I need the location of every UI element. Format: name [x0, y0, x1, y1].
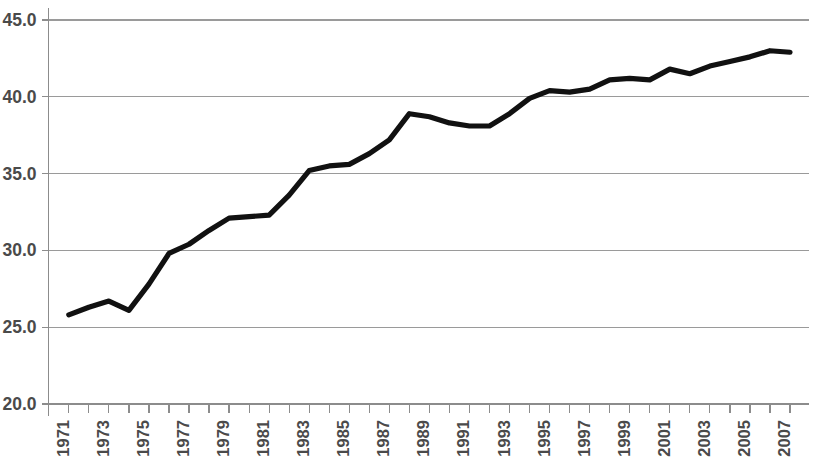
- x-tick-label-1983: 1983: [294, 420, 312, 457]
- line-chart: 20.025.030.035.040.045.0 197119731975197…: [0, 0, 819, 463]
- y-tick-label-35: 35.0: [2, 164, 36, 184]
- x-tick-label-2007: 2007: [775, 420, 793, 457]
- x-tick-label-1997: 1997: [575, 420, 593, 457]
- x-tick-label-1975: 1975: [134, 420, 152, 457]
- x-tick-label-1981: 1981: [254, 420, 272, 457]
- x-tick-label-1971: 1971: [54, 420, 72, 457]
- x-tick-label-1987: 1987: [374, 420, 392, 457]
- x-tick-label-1999: 1999: [615, 420, 633, 457]
- x-tick-label-2005: 2005: [735, 420, 753, 457]
- y-tick-label-40: 40.0: [2, 87, 36, 107]
- y-tick-label-30: 30.0: [2, 240, 36, 260]
- y-tick-label-45: 45.0: [2, 10, 36, 30]
- x-tick-label-1973: 1973: [94, 420, 112, 457]
- y-tick-label-20: 20.0: [2, 394, 36, 414]
- x-tick-label-1995: 1995: [535, 420, 553, 457]
- y-tick-marks: [42, 20, 49, 404]
- x-tick-label-1977: 1977: [174, 420, 192, 457]
- x-tick-label-2003: 2003: [695, 420, 713, 457]
- y-axis-tick-labels: 20.025.030.035.040.045.0: [2, 10, 36, 414]
- x-tick-label-1993: 1993: [495, 420, 513, 457]
- gridlines: [49, 20, 809, 404]
- x-tick-label-2001: 2001: [655, 420, 673, 457]
- data-series-line: [69, 51, 790, 315]
- y-tick-label-25: 25.0: [2, 317, 36, 337]
- x-axis-tick-labels: 1971197319751977197919811983198519871989…: [54, 420, 793, 457]
- series-path-series-1: [69, 51, 790, 315]
- x-tick-label-1989: 1989: [414, 420, 432, 457]
- x-tick-label-1979: 1979: [214, 420, 232, 457]
- x-tick-label-1985: 1985: [334, 420, 352, 457]
- x-tick-label-1991: 1991: [454, 420, 472, 457]
- chart-canvas: 20.025.030.035.040.045.0 197119731975197…: [0, 0, 819, 463]
- x-tick-marks: [69, 404, 790, 413]
